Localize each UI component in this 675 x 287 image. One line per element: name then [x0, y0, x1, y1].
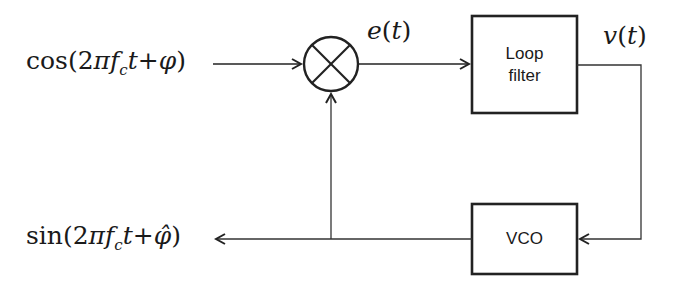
t: t — [123, 221, 133, 250]
name: v — [603, 21, 617, 50]
t: t — [128, 46, 138, 75]
sub: c — [119, 61, 127, 79]
loop-filter-label: Loop filter — [472, 43, 577, 87]
error-signal-label: e(t) — [367, 16, 411, 45]
fn: cos — [26, 46, 68, 75]
loop-filter-line1: Loop — [472, 43, 577, 65]
open: (2 — [68, 46, 94, 75]
plus: + — [138, 46, 159, 75]
phi: φ̂ — [154, 221, 172, 250]
close: ) — [176, 46, 186, 75]
close: ) — [637, 21, 647, 50]
control-wire — [577, 65, 641, 239]
f: f — [105, 221, 114, 250]
t: t — [627, 21, 637, 50]
f: f — [110, 46, 119, 75]
open: ( — [382, 16, 392, 45]
close: ) — [402, 16, 412, 45]
plus: + — [133, 221, 154, 250]
fn: sin — [26, 221, 63, 250]
control-signal-label: v(t) — [603, 21, 647, 50]
open: ( — [617, 21, 627, 50]
input-signal-label: cos(2πfct+φ) — [26, 46, 186, 79]
pi: π — [89, 221, 105, 250]
close: ) — [171, 221, 181, 250]
vco-label: VCO — [472, 228, 577, 250]
t: t — [392, 16, 402, 45]
name: e — [367, 16, 382, 45]
output-signal-label: sin(2πfct+φ̂) — [26, 221, 181, 254]
open: (2 — [63, 221, 89, 250]
multiplier-icon — [304, 37, 358, 91]
sub: c — [114, 236, 122, 254]
phi: φ — [159, 46, 177, 75]
vco-text: VCO — [506, 229, 543, 248]
loop-filter-line2: filter — [472, 65, 577, 87]
pi: π — [94, 46, 110, 75]
